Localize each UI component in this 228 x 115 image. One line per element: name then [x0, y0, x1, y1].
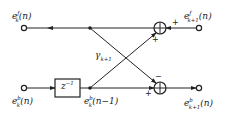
label-bottom-left: ebk(n): [12, 96, 33, 108]
coefficient-label: γk+1: [95, 51, 112, 62]
label-top-right: efk+1(n): [184, 11, 212, 23]
label-bottom-right: ebk+1(n): [184, 98, 213, 110]
bottom-adder-sign-left: +: [145, 90, 152, 98]
top-right-terminal: [196, 25, 201, 30]
bottom-left-terminal: [21, 85, 26, 90]
lattice-diagram: efk(n) efk+1(n) ebk(n) ebk(n−1) ebk+1(n)…: [0, 0, 228, 115]
top-adder-sign-bottom: +: [152, 36, 159, 44]
top-adder-sign-right: +: [172, 19, 179, 27]
top-left-terminal: [21, 25, 26, 30]
label-top-left: efk(n): [12, 11, 32, 23]
label-bottom-mid: ebk(n−1): [84, 96, 118, 108]
bottom-adder-sign-top: −: [155, 73, 162, 81]
delay-label: z−1: [61, 80, 74, 91]
bottom-right-terminal: [196, 85, 201, 90]
